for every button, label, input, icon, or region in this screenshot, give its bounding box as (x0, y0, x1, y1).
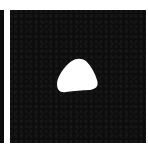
segmentation-blob (10, 10, 146, 143)
mask-panel (10, 10, 146, 143)
left-partial-panel (0, 10, 4, 143)
